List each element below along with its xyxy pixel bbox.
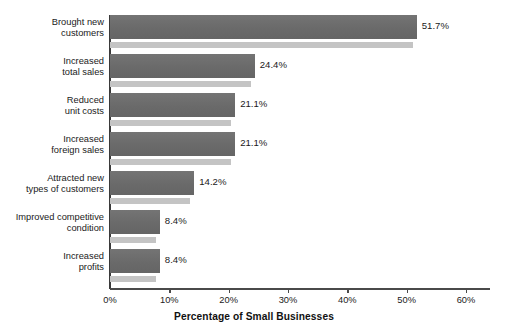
category-label: Attracted new types of customers [0, 173, 104, 195]
bar-value-label: 21.1% [240, 98, 267, 110]
bar [110, 15, 417, 39]
x-axis-tick [169, 288, 170, 293]
bar-chart: Brought new customersIncreased total sal… [0, 0, 508, 330]
bar-group: 14.2% [110, 171, 466, 204]
bar-value-label: 8.4% [165, 215, 187, 227]
bar [110, 249, 160, 273]
bar-shadow [110, 159, 231, 165]
x-axis-tick-label: 60% [457, 295, 476, 306]
bar-value-label: 24.4% [260, 59, 287, 71]
x-axis-tick-label: 30% [279, 295, 298, 306]
bar-value-label: 51.7% [422, 20, 449, 32]
category-label: Increased foreign sales [0, 134, 104, 156]
category-axis-labels: Brought new customersIncreased total sal… [0, 15, 104, 288]
bar-group: 21.1% [110, 93, 466, 126]
x-axis-tick [347, 288, 348, 293]
bar-group: 8.4% [110, 249, 466, 282]
plot-area: 51.7%24.4%21.1%21.1%14.2%8.4%8.4% [110, 15, 466, 288]
category-label: Increased total sales [0, 56, 104, 78]
bar [110, 171, 194, 195]
x-axis-tick [466, 288, 467, 293]
bar-shadow [110, 81, 251, 87]
bar-value-label: 14.2% [199, 176, 226, 188]
bar-group: 51.7% [110, 15, 466, 48]
bar-group: 8.4% [110, 210, 466, 243]
bar [110, 93, 235, 117]
bar [110, 210, 160, 234]
category-label: Brought new customers [0, 17, 104, 39]
x-axis-line [110, 288, 490, 290]
category-label: Increased profits [0, 251, 104, 273]
bar-value-label: 21.1% [240, 137, 267, 149]
category-label: Improved competitive condition [0, 212, 104, 234]
x-axis-tick-label: 10% [160, 295, 179, 306]
x-axis-tick-label: 20% [219, 295, 238, 306]
bar-group: 24.4% [110, 54, 466, 87]
x-axis-tick [407, 288, 408, 293]
bar-shadow [110, 42, 413, 48]
bar-shadow [110, 120, 231, 126]
x-axis-tick [229, 288, 230, 293]
x-axis-tick-label: 0% [103, 295, 116, 306]
bar-shadow [110, 237, 156, 243]
bar-shadow [110, 276, 156, 282]
bar [110, 132, 235, 156]
x-axis-title: Percentage of Small Businesses [0, 311, 508, 322]
bar-group: 21.1% [110, 132, 466, 165]
bar [110, 54, 255, 78]
x-axis-tick-label: 40% [338, 295, 357, 306]
category-label: Reduced unit costs [0, 95, 104, 117]
x-axis-tick [288, 288, 289, 293]
bar-shadow [110, 198, 190, 204]
x-axis-tick-label: 50% [397, 295, 416, 306]
bar-value-label: 8.4% [165, 254, 187, 266]
